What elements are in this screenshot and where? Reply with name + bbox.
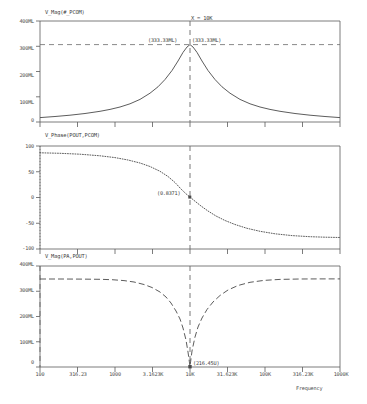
- y-tick-marks: [36, 266, 40, 367]
- cursor-marker-point: [188, 196, 191, 199]
- x-tick-marks: [40, 122, 340, 127]
- y-tick-marks: [36, 21, 40, 122]
- plot-panel-magnitude-pcom[interactable]: V_Mag(#_PCOM) X = 10K 400ML 300ML 200ML …: [0, 0, 367, 130]
- waveform-viewer: V_Mag(#_PCOM) X = 10K 400ML 300ML 200ML …: [0, 0, 367, 404]
- plot-panel-phase[interactable]: V_Phase(POUT,PCOM) 100 50 0 -50 -100 (0.…: [0, 130, 367, 255]
- cursor-marker-point: [188, 365, 191, 368]
- y-tick-marks: [36, 146, 40, 249]
- plot-panel-magnitude-pa-pout[interactable]: V_Mag(PA,POUT) 400ML 300ML 200ML 100ML 0…: [0, 255, 367, 404]
- plot-canvas-magnitude-pa-pout: [0, 255, 367, 404]
- plot-canvas-phase: [0, 130, 367, 255]
- plot-canvas-magnitude-pcom: [0, 0, 367, 130]
